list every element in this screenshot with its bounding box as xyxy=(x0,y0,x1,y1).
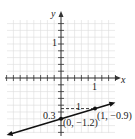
y-axis-label: y xyxy=(51,9,55,19)
run-label: 1 xyxy=(76,102,81,112)
point-label-0: (0, −1.2) xyxy=(63,118,98,128)
x-axis-label: x xyxy=(121,75,125,85)
x-tick-label: 1 xyxy=(92,82,97,92)
point-label-1: (1, −0.9) xyxy=(97,111,132,121)
y-tick-label: 1 xyxy=(52,38,57,48)
rise-label: 0.3 xyxy=(43,111,56,121)
